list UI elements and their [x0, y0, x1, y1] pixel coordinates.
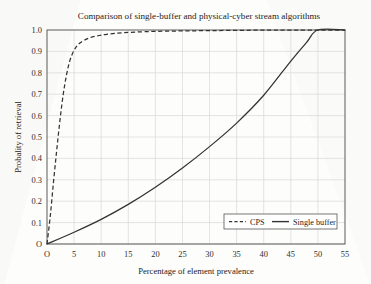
y-tick-0: O: [36, 240, 42, 249]
y-tick-2: 0.2: [32, 197, 42, 206]
x-tick-8: 40: [260, 250, 268, 259]
x-tick-3: 15: [124, 250, 132, 259]
legend-label-cps: CPS: [250, 218, 265, 227]
x-tick-1: 5: [72, 250, 76, 259]
line-chart-canvas: Comparison of single-buffer and physical…: [0, 0, 371, 284]
y-tick-6: 0.6: [32, 112, 42, 121]
y-axis-label: Probality of retrieval: [13, 101, 23, 173]
x-tick-9: 45: [287, 250, 295, 259]
x-tick-0: O: [44, 250, 50, 259]
legend-label-single-buffer: Single buffer: [293, 218, 336, 227]
y-tick-4: 0.4: [32, 154, 43, 163]
y-tick-8: 0.8: [32, 69, 42, 78]
x-tick-5: 25: [178, 250, 186, 259]
grid-lines: [47, 30, 345, 244]
x-axis-ticks: O 5 10 15 20 25 30 35 40 45 50 55: [44, 250, 349, 259]
x-tick-10: 50: [314, 250, 322, 259]
x-tick-6: 30: [205, 250, 213, 259]
chart-title: Comparison of single-buffer and physical…: [78, 11, 321, 21]
y-tick-3: 0.3: [32, 176, 42, 185]
y-tick-10: 1.0: [32, 26, 42, 35]
x-tick-4: 20: [151, 250, 159, 259]
x-tick-11: 55: [341, 250, 349, 259]
x-tick-7: 35: [232, 250, 240, 259]
series-line-single-buffer: [47, 29, 345, 244]
chart-legend[interactable]: CPS Single buffer: [224, 214, 337, 229]
x-tick-2: 10: [97, 250, 105, 259]
x-axis-label: Percentage of element prevalence: [138, 266, 254, 276]
y-tick-9: 0.9: [32, 47, 42, 56]
y-tick-7: 0.7: [32, 90, 42, 99]
y-tick-5: 0.5: [32, 133, 42, 142]
y-tick-1: 0.1: [32, 219, 42, 228]
chart-figure: Comparison of single-buffer and physical…: [0, 0, 371, 284]
y-axis-ticks: O 0.1 0.2 0.3 0.4 0.5 0.6 0.7 0.8 0.9 1.…: [32, 26, 43, 249]
